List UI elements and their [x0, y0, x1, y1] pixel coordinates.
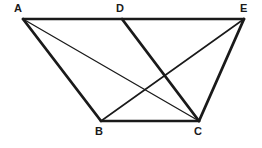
vertex-label-A: A	[14, 3, 22, 14]
segment-DC	[122, 19, 199, 121]
vertex-label-B: B	[95, 126, 103, 137]
segment-AB	[23, 19, 101, 121]
vertex-label-E: E	[240, 3, 247, 14]
vertex-label-D: D	[116, 3, 124, 14]
segments-group	[23, 19, 244, 121]
vertex-label-C: C	[194, 126, 202, 137]
geometry-figure-canvas: A D E B C	[0, 0, 262, 148]
geometry-diagram-svg	[0, 0, 262, 148]
